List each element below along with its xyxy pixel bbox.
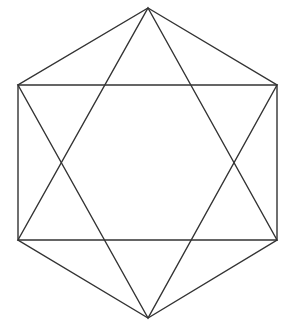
hexagram-figure: Hexagram inscribed in a regular hexagon … [0,0,293,327]
canvas-background [0,0,293,327]
